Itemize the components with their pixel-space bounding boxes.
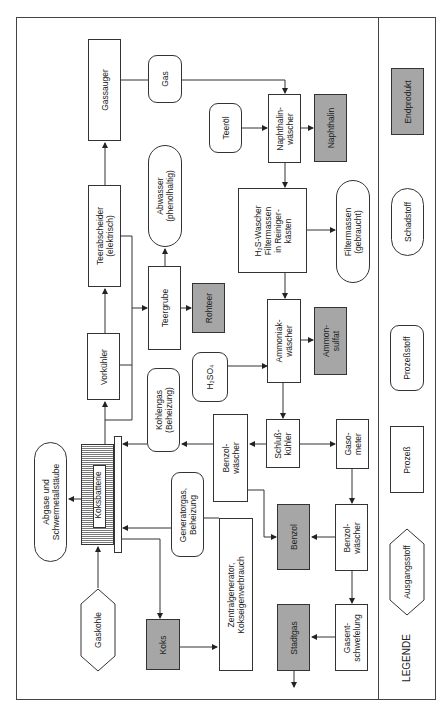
node-generatorgas: Generatorgas, Beheizung <box>171 472 204 557</box>
node-naphthalin: Naphthalin <box>314 94 347 162</box>
node-stadtgas: Stadtgas <box>277 604 310 671</box>
node-gas: Gas <box>148 55 182 103</box>
node-gasentschwefelung: Gasent- schwefelung <box>335 604 368 671</box>
node-kohlengas: Kohlengas (Beheizung) <box>147 368 180 452</box>
legend-ausgangsstoff: Ausgangsstoff <box>389 528 425 616</box>
node-teeroel: Teeröl <box>209 103 242 153</box>
node-benzolwaescher-1: Benzol- wäscher <box>213 414 248 502</box>
node-filtermassen: Filtermassen (gebraucht) <box>336 180 370 283</box>
node-ammonsulfat: Ammon- sulfat <box>314 307 347 375</box>
node-gassauger: Gassauger <box>88 39 121 141</box>
node-naphthalinwaescher: Naphthalin- wäscher <box>268 94 301 163</box>
node-abgase: Abgase und Schwermetallstäube <box>34 442 67 562</box>
koksbatterie-plate <box>114 436 122 553</box>
node-ammoniakwaescher: Ammoniak- wäscher <box>267 299 301 383</box>
node-vorkuehler: Vorkühler <box>87 333 120 400</box>
node-schlusskuehler: Schluß- kühler <box>266 419 300 468</box>
legend-prozessstoff: Prozeßstoff <box>390 325 424 391</box>
node-teergrube: Teergrube <box>148 266 181 350</box>
node-koks: Koks <box>146 619 180 670</box>
legend-schadstoff: Schadstoff <box>391 188 424 256</box>
node-benzol: Benzol <box>277 504 310 570</box>
node-gaskohle: Gaskohle <box>80 588 116 672</box>
node-koksbatterie: Koksbatterie <box>81 444 114 545</box>
node-benzolwaescher-2: Benzol- wäscher <box>335 504 368 571</box>
node-gasometer: Gaso- meter <box>336 419 369 469</box>
node-h2so4: H₂SO₄ <box>192 352 228 402</box>
node-abwasser: Abwasser (phenolhaltig) <box>148 145 182 247</box>
legend-prozess: Prozeß <box>390 426 424 493</box>
legend-title: LEGENDE <box>394 628 420 688</box>
legend-endprodukt: Endprodukt <box>391 68 424 135</box>
node-teerabscheider: Teerabscheider (elektrisch) <box>88 185 121 287</box>
node-h2s-waescher: H₂S-Wascher Filtermassen in Reiniger- kä… <box>238 188 307 273</box>
node-rohteer: Rohteer <box>192 283 225 333</box>
node-zentralgenerator: Zentralgenerator, Kokseigenverbrauch <box>219 518 253 671</box>
